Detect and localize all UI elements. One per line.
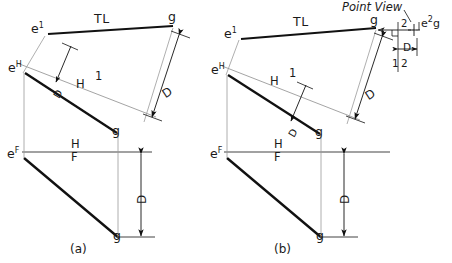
panel-b-point-view-note: Point View <box>342 2 402 14</box>
panel-a-label-horiz-g: g <box>112 125 120 138</box>
figure-root: e1 TL g eH g H 1 H F eF g D D D (a) e1 T… <box>0 0 452 263</box>
panel-b-label-horiz-g: g <box>315 126 323 139</box>
panel-a-dim-label-front: D <box>136 195 148 204</box>
panel-a-projector-g <box>144 28 173 122</box>
panel-a-label-front-e: eF <box>7 147 19 161</box>
panel-b-label-tl: TL <box>293 16 309 29</box>
panel-a-label-aux-g: g <box>168 11 176 24</box>
panel-a-fold-label-h: H <box>76 79 85 91</box>
panel-a-label-aux-e: e1 <box>31 22 44 36</box>
panel-a-dim-line-small <box>56 46 71 82</box>
panel-a-label-horiz-e: eH <box>8 61 22 75</box>
panel-b-dim-label-front: D <box>339 195 351 204</box>
panel-b-label-front-e: eF <box>210 147 222 161</box>
panel-a-horizontal-view-line <box>25 73 117 133</box>
panel-b-label-front-g: g <box>316 230 324 243</box>
panel-b-dim-line-aux <box>355 37 382 119</box>
panel-b-dim-line-small <box>291 85 306 121</box>
panel-a-label-front-g: g <box>113 230 121 243</box>
panel-b-view2-label: 2 <box>401 19 407 29</box>
panel-a-tl-line <box>48 26 173 34</box>
panel-a-projector-e <box>23 36 45 73</box>
panel-a-fold-label-hf-h: H <box>71 139 80 151</box>
panel-a-fold-line-h1 <box>17 63 156 117</box>
panel-a-front-view-line <box>24 158 119 238</box>
panel-a-fold-label-1: 1 <box>95 71 102 83</box>
panel-b-fold-label-12-left: 1 <box>392 58 399 69</box>
panel-b-fold-label-h: H <box>270 76 279 88</box>
panel-b-dim-ext-aux-top <box>374 33 393 40</box>
panel-b-tl-line <box>241 28 376 39</box>
panel-b-front-view-line <box>227 158 322 238</box>
panel-b-caption: (b) <box>274 243 291 255</box>
panel-b-label-aux-e: e1 <box>224 27 237 41</box>
panel-b-right-angle-marker <box>392 30 398 36</box>
panel-b-fold-label-hf-f: F <box>274 152 281 164</box>
panel-a-dim-line-aux <box>152 35 179 117</box>
panel-b-projector-g <box>347 30 376 124</box>
panel-b-fold-label-12-right: 2 <box>401 58 408 69</box>
panel-a-dim-ext-aux-top <box>171 31 190 38</box>
panel-b-label-aux-g: g <box>370 14 378 27</box>
panel-b-point-view-point-label: e2g <box>421 16 440 29</box>
panel-b-fold-label-1: 1 <box>289 68 296 80</box>
panel-b-fold-label-hf-h: H <box>274 139 283 151</box>
panel-a-fold-label-hf-f: F <box>71 152 78 164</box>
panel-b-dim-label-pointview: D <box>403 42 411 53</box>
panel-a-geometry <box>17 26 190 238</box>
panel-b-label-horiz-e: eH <box>211 63 225 77</box>
panel-a-label-tl: TL <box>94 13 110 26</box>
panel-a-caption: (a) <box>70 243 87 255</box>
